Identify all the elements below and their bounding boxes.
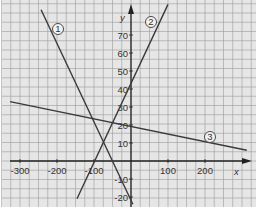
line-chart: -300-200-100100200-20-1010203040506070yx… [0,0,256,213]
y-tick-label: 50 [117,66,128,77]
y-tick-label: 60 [117,48,128,59]
series-number-label: 3 [207,131,212,142]
x-tick-label: -100 [84,165,103,176]
x-tick-label: 200 [197,165,213,176]
y-tick-label: -20 [114,192,128,203]
series-number-label: 1 [55,23,60,34]
y-tick-label: 30 [117,102,128,113]
y-tick-label: 10 [117,138,128,149]
series-number-label: 2 [148,16,153,27]
x-tick-label: -200 [47,165,66,176]
x-tick-label: 100 [160,165,176,176]
plot-background [2,0,256,207]
x-tick-label: -300 [10,165,29,176]
y-tick-label: 70 [117,30,128,41]
